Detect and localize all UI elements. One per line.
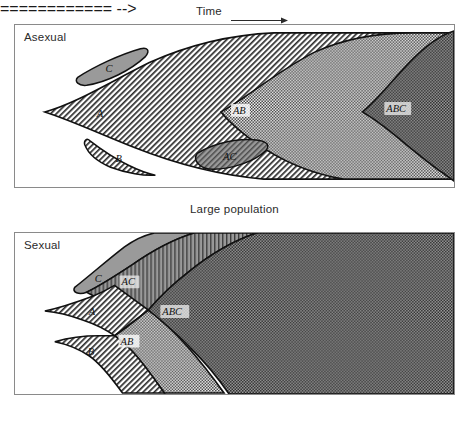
time-axis-caption: Time [196, 5, 222, 17]
asexual-diagram: A C B AB AC ABC [15, 25, 454, 187]
sexual-diagram: C AC A AB B ABC [15, 233, 454, 394]
svg-text:B: B [88, 347, 95, 358]
panel-asexual: Asexual [14, 24, 455, 188]
region-label-sexual-B: B [88, 347, 95, 358]
region-label-sexual-AB: AB [119, 335, 140, 348]
svg-text:A: A [88, 306, 96, 317]
svg-text:AB: AB [120, 336, 134, 347]
svg-text:AB: AB [232, 105, 246, 116]
region-label-sexual-ABC: ABC [160, 305, 189, 318]
panel-asexual-title: Asexual [24, 31, 66, 43]
region-label-asexual-A: A [96, 108, 104, 119]
svg-text:ABC: ABC [385, 103, 407, 114]
region-label-sexual-C: C [95, 273, 103, 284]
region-label-sexual-A: A [88, 306, 96, 317]
region-label-sexual-AC: AC [120, 275, 140, 288]
panel-sexual-title: Sexual [24, 239, 60, 251]
svg-text:B: B [116, 153, 123, 164]
svg-text:C: C [106, 63, 114, 74]
large-population-caption: Large population [190, 203, 279, 215]
svg-text:AC: AC [222, 151, 237, 162]
right-arrow-icon [231, 11, 289, 20]
region-label-asexual-ABC: ABC [384, 102, 411, 115]
region-label-asexual-AB: AB [231, 104, 250, 117]
svg-text:A: A [96, 108, 104, 119]
svg-text:ABC: ABC [161, 306, 183, 317]
svg-text:C: C [95, 273, 103, 284]
panel-sexual: Sexual [14, 232, 455, 395]
region-label-asexual-AC: AC [222, 151, 237, 162]
region-label-asexual-B: B [116, 153, 123, 164]
region-label-asexual-C: C [106, 63, 114, 74]
svg-text:AC: AC [121, 276, 136, 287]
